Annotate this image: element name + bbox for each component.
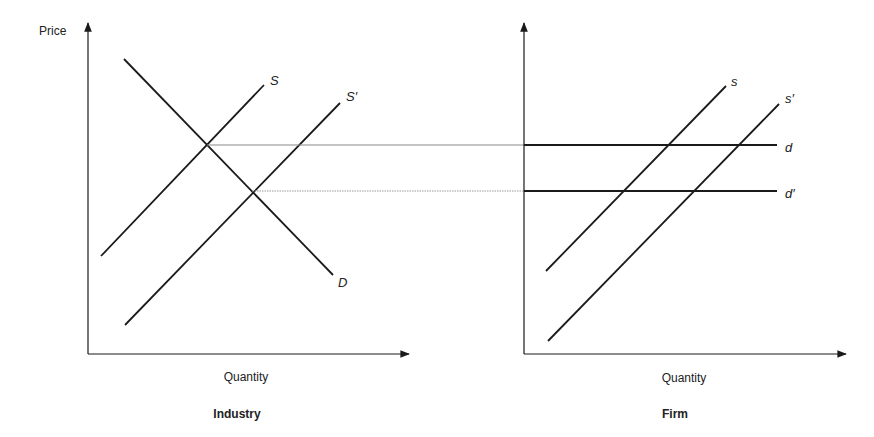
firm-supply-curve-s-prime — [548, 104, 779, 341]
label-D: D — [338, 276, 347, 289]
firm-panel-title: Firm — [662, 408, 688, 420]
label-d-prime: d′ — [785, 187, 795, 200]
label-s: s — [731, 75, 738, 88]
industry-y-axis-label: Price — [39, 25, 66, 37]
industry-supply-curve-S-prime — [125, 103, 340, 325]
label-S-prime: S′ — [346, 90, 357, 103]
firm-x-axis-label: Quantity — [662, 372, 707, 384]
firm-axes — [524, 23, 846, 354]
label-d: d — [785, 141, 792, 154]
label-S: S — [270, 74, 279, 87]
firm-supply-curve-s — [546, 86, 726, 271]
industry-supply-curve-S — [101, 85, 264, 256]
industry-demand-curve-D — [124, 59, 333, 275]
label-s-prime: s′ — [785, 92, 794, 105]
industry-x-axis-label: Quantity — [224, 371, 269, 383]
industry-panel-title: Industry — [213, 408, 260, 420]
diagram-canvas — [0, 0, 874, 437]
